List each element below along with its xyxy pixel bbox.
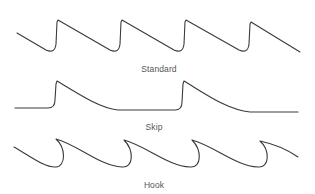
standard-waveform	[17, 20, 300, 52]
skip-label: Skip	[114, 122, 194, 132]
waveform-figure: Standard Skip Hook	[0, 0, 315, 194]
skip-waveform	[15, 81, 298, 112]
hook-waveform	[14, 139, 298, 167]
waveforms-svg	[0, 0, 315, 194]
standard-label: Standard	[119, 64, 199, 74]
hook-label: Hook	[114, 180, 194, 190]
